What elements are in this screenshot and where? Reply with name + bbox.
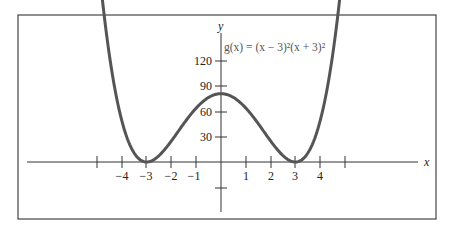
chart-canvas: −4 −3 −2 −1 1 2 3 4 30 60 90 120 x y g(x… [0, 0, 454, 231]
y-tick-label: 30 [200, 130, 212, 144]
x-tick-label: 4 [317, 169, 323, 183]
x-tick-label: 2 [268, 169, 274, 183]
x-tick-label: −2 [165, 169, 178, 183]
x-tick-label: 3 [292, 169, 298, 183]
x-tick-label: −4 [116, 169, 129, 183]
x-tick-label: −3 [140, 169, 153, 183]
y-tick-label: 60 [200, 105, 212, 119]
x-axis-label: x [423, 155, 430, 169]
y-tick-label: 90 [200, 79, 212, 93]
y-axis-label: y [217, 19, 224, 33]
x-tick-label: −1 [188, 169, 201, 183]
x-tick-label: 1 [243, 169, 249, 183]
y-tick-label: 120 [194, 54, 212, 68]
function-label: g(x) = (x − 3)²(x + 3)² [224, 41, 326, 54]
